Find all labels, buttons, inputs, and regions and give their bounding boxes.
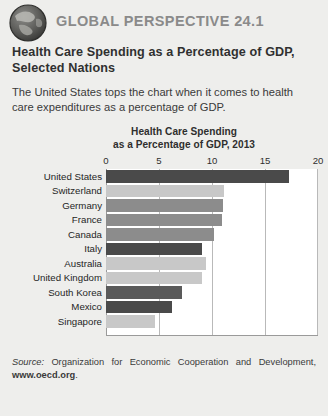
chart-title-line-1: Health Care Spending <box>50 126 318 139</box>
bar-row: Mexico <box>10 300 318 315</box>
bar-track <box>106 271 318 286</box>
bar-rows: United StatesSwitzerlandGermanyFranceCan… <box>10 169 318 335</box>
bar-label-mexico: Mexico <box>10 302 106 312</box>
figure-intro: The United States tops the chart when it… <box>12 85 316 115</box>
bar-row: South Korea <box>10 285 318 300</box>
bar-label-south-korea: South Korea <box>10 288 106 298</box>
x-tick-5: 5 <box>156 155 161 166</box>
bar-track <box>106 314 318 329</box>
bar-australia <box>106 257 206 270</box>
source-text: Organization for Economic Cooperation an… <box>44 357 316 367</box>
figure-kicker: GLOBAL PERSPECTIVE 24.1 <box>56 13 264 29</box>
bar-track <box>106 198 318 213</box>
bar-track <box>106 213 318 228</box>
bar-label-united-states: United States <box>10 172 106 182</box>
bar-united-states <box>106 170 289 183</box>
figure-title: Health Care Spending as a Percentage of … <box>12 44 316 76</box>
source-note: Source: Organization for Economic Cooper… <box>12 356 316 381</box>
bar-row: Switzerland <box>10 184 318 199</box>
bar-label-switzerland: Switzerland <box>10 186 106 196</box>
bar-row: Canada <box>10 227 318 242</box>
figure-header: GLOBAL PERSPECTIVE 24.1 <box>0 0 328 42</box>
x-tick-15: 15 <box>260 155 271 166</box>
chart: Health Care Spending as a Percentage of … <box>10 126 318 343</box>
bar-canada <box>106 228 214 241</box>
figure-box: GLOBAL PERSPECTIVE 24.1 Health Care Spen… <box>0 0 328 416</box>
x-axis-tick-labels: 05101520 <box>106 155 318 169</box>
bar-track <box>106 256 318 271</box>
bar-label-germany: Germany <box>10 201 106 211</box>
x-axis-line <box>106 335 318 336</box>
bar-row: Australia <box>10 256 318 271</box>
bar-row: Italy <box>10 242 318 257</box>
bar-label-canada: Canada <box>10 230 106 240</box>
bar-italy <box>106 243 202 256</box>
x-tick-10: 10 <box>207 155 218 166</box>
bar-row: Germany <box>10 198 318 213</box>
bar-united-kingdom <box>106 272 202 285</box>
bar-track <box>106 300 318 315</box>
bar-south-korea <box>106 286 182 299</box>
bar-track <box>106 184 318 199</box>
chart-title: Health Care Spending as a Percentage of … <box>10 126 318 151</box>
bar-row: United States <box>10 169 318 184</box>
source-url[interactable]: www.oecd.org <box>12 370 75 380</box>
source-period: . <box>75 370 78 380</box>
bar-singapore <box>106 315 155 328</box>
bar-switzerland <box>106 185 224 198</box>
bar-label-italy: Italy <box>10 244 106 254</box>
bar-row: United Kingdom <box>10 271 318 286</box>
source-lead: Source: <box>12 357 44 367</box>
bar-mexico <box>106 301 172 314</box>
chart-plot: 05101520 United StatesSwitzerlandGermany… <box>10 155 318 343</box>
bar-label-france: France <box>10 215 106 225</box>
bar-label-singapore: Singapore <box>10 317 106 327</box>
bar-germany <box>106 199 223 212</box>
bar-track <box>106 242 318 257</box>
x-tick-0: 0 <box>103 155 108 166</box>
bar-track <box>106 169 318 184</box>
bar-label-australia: Australia <box>10 259 106 269</box>
bar-track <box>106 285 318 300</box>
bar-row: Singapore <box>10 314 318 329</box>
bar-row: France <box>10 213 318 228</box>
bar-label-united-kingdom: United Kingdom <box>10 273 106 283</box>
globe-icon <box>6 3 50 43</box>
bar-track <box>106 227 318 242</box>
chart-title-line-2: as a Percentage of GDP, 2013 <box>50 139 318 152</box>
x-tick-20: 20 <box>313 155 324 166</box>
bar-france <box>106 214 222 227</box>
